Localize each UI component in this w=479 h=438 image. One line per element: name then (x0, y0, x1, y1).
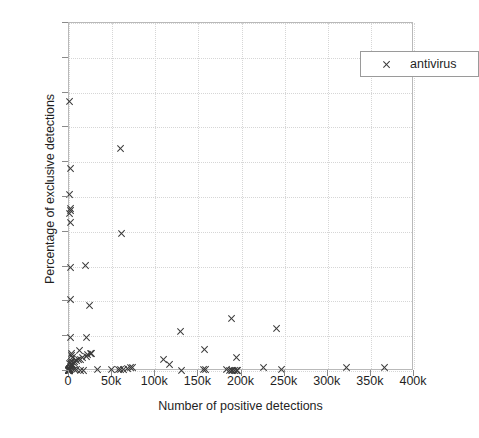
data-point-marker (78, 353, 87, 362)
data-point-marker (82, 333, 91, 342)
data-point-marker (75, 346, 84, 355)
y-tick-mark (62, 335, 68, 336)
data-point-marker (159, 355, 168, 364)
data-point-marker (66, 218, 75, 227)
gridline-horizontal (69, 23, 412, 24)
x-tick-mark (370, 370, 371, 376)
y-axis-title: Percentage of exclusive detections (43, 19, 57, 359)
data-point-marker (66, 164, 75, 173)
y-tick-mark (62, 57, 68, 58)
data-point-marker (114, 365, 123, 374)
y-tick-mark (62, 161, 68, 162)
gridline-vertical (69, 23, 70, 369)
x-tick-mark (413, 370, 414, 376)
data-point-marker (116, 144, 125, 153)
gridline-vertical (328, 23, 329, 369)
data-point-marker (123, 364, 132, 373)
data-point-marker (86, 349, 95, 358)
x-tick-mark (327, 370, 328, 376)
data-point-marker (66, 204, 75, 213)
y-tick-mark (62, 22, 68, 23)
data-point-marker (71, 357, 80, 366)
plot-area: antivirus (68, 22, 413, 370)
data-point-marker (199, 365, 208, 374)
data-point-marker (117, 229, 126, 238)
gridline-horizontal (69, 301, 412, 302)
gridline-horizontal (69, 267, 412, 268)
data-point-marker (81, 261, 90, 270)
data-point-marker (119, 365, 128, 374)
gridline-vertical (242, 23, 243, 369)
data-point-marker (93, 365, 102, 374)
gridline-vertical (285, 23, 286, 369)
data-point-marker (67, 361, 76, 370)
legend-marker-x-icon (382, 60, 391, 69)
gridline-vertical (112, 23, 113, 369)
legend-box[interactable]: antivirus (360, 51, 479, 77)
x-tick-label: 400k (383, 374, 443, 388)
gridline-horizontal (69, 336, 412, 337)
data-point-marker (66, 209, 75, 218)
data-point-marker (232, 353, 241, 362)
gridline-horizontal (69, 197, 412, 198)
data-point-marker (66, 358, 75, 367)
x-tick-mark (68, 370, 69, 376)
data-point-marker (176, 327, 185, 336)
x-axis-title: Number of positive detections (68, 399, 413, 413)
data-point-marker (69, 358, 78, 367)
data-point-marker (200, 345, 209, 354)
y-tick-mark (62, 231, 68, 232)
data-point-marker (83, 350, 92, 359)
data-point-marker (77, 355, 86, 364)
data-point-marker (165, 360, 174, 369)
x-tick-mark (284, 370, 285, 376)
y-tick-mark (62, 92, 68, 93)
gridline-horizontal (69, 162, 412, 163)
y-tick-mark (62, 196, 68, 197)
data-point-marker (116, 365, 125, 374)
data-point-marker (87, 349, 96, 358)
x-tick-mark (241, 370, 242, 376)
data-point-marker (82, 352, 91, 361)
gridline-horizontal (69, 93, 412, 94)
data-point-marker (74, 355, 83, 364)
data-point-marker (85, 301, 94, 310)
gridline-horizontal (69, 232, 412, 233)
data-point-marker (222, 365, 231, 374)
gridline-vertical (198, 23, 199, 369)
data-point-marker (66, 206, 75, 215)
legend-label-antivirus: antivirus (410, 57, 457, 71)
x-tick-mark (197, 370, 198, 376)
x-tick-mark (154, 370, 155, 376)
data-point-marker (66, 295, 75, 304)
y-tick-mark (62, 126, 68, 127)
y-tick-mark (62, 300, 68, 301)
data-point-marker (272, 324, 281, 333)
data-point-marker (228, 314, 237, 323)
gridline-horizontal (69, 127, 412, 128)
gridline-vertical (155, 23, 156, 369)
data-point-marker (72, 356, 81, 365)
y-tick-mark (62, 266, 68, 267)
x-tick-mark (111, 370, 112, 376)
data-point-marker (70, 365, 79, 374)
